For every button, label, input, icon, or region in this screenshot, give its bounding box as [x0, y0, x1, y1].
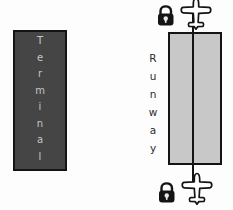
- airplane-top-icon: [178, 0, 214, 31]
- terminal-box: Terminal: [13, 30, 67, 171]
- flight-path-line: [192, 13, 194, 185]
- airplane-bottom-icon: [179, 172, 215, 206]
- terminal-label: Terminal: [35, 35, 46, 167]
- lock-top-icon: [155, 3, 177, 28]
- airport-diagram: Terminal Runway: [0, 0, 233, 210]
- runway-label: Runway: [147, 52, 159, 160]
- lock-bottom-icon: [156, 180, 178, 205]
- runway-box: [168, 32, 222, 165]
